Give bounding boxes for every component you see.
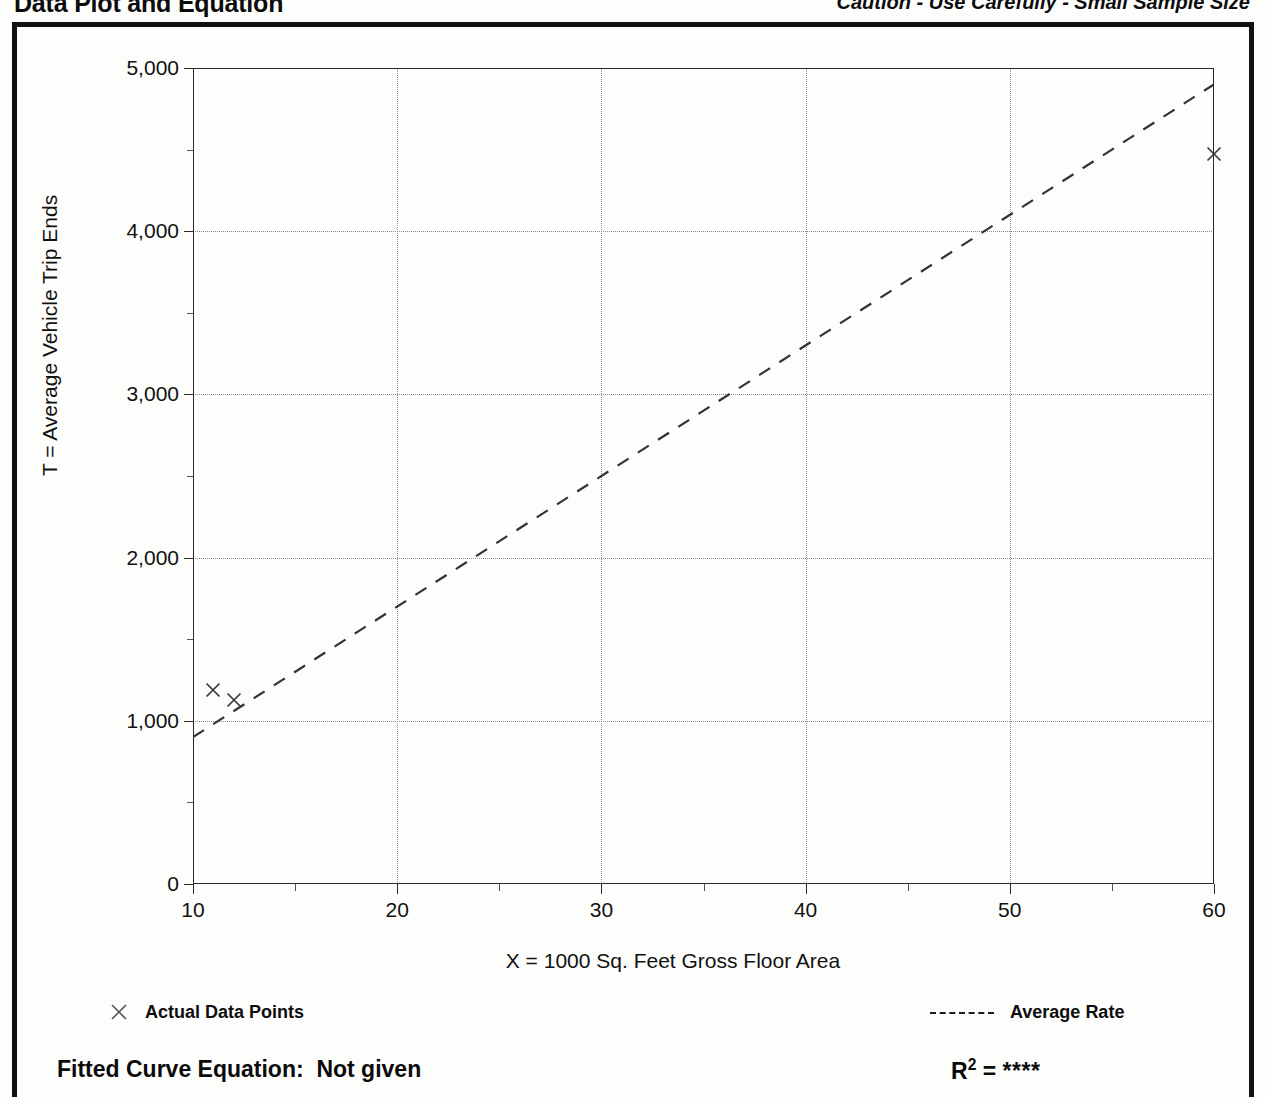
x-tick-major	[1214, 884, 1215, 894]
y-tick-label: 5,000	[126, 56, 179, 80]
legend-x-marker-icon	[108, 1001, 130, 1023]
y-tick-label: 1,000	[126, 709, 179, 733]
x-tick-label: 60	[1202, 898, 1225, 922]
legend-average-rate-line	[930, 1012, 994, 1014]
x-tick-major	[601, 884, 602, 894]
r-squared-value: R2 = ****	[951, 1056, 1040, 1085]
plot-area: 01,0002,0003,0004,0005,000102030405060	[193, 68, 1214, 884]
x-tick-minor	[295, 884, 296, 891]
x-tick-minor	[704, 884, 705, 891]
x-tick-label: 50	[998, 898, 1021, 922]
x-tick-major	[397, 884, 398, 894]
y-tick-major	[184, 231, 193, 232]
legend-data-points-label: Actual Data Points	[145, 1002, 304, 1023]
x-tick-label: 40	[794, 898, 817, 922]
x-tick-minor	[908, 884, 909, 891]
page-header: Data Plot and Equation Caution - Use Car…	[0, 0, 1266, 17]
y-tick-major	[184, 721, 193, 722]
x-tick-major	[1010, 884, 1011, 894]
legend-average-rate-label: Average Rate	[1010, 1002, 1124, 1023]
y-tick-label: 3,000	[126, 382, 179, 406]
r-letter: R	[951, 1058, 968, 1084]
x-tick-label: 10	[181, 898, 204, 922]
x-tick-minor	[499, 884, 500, 891]
r-equals: =	[983, 1058, 996, 1084]
y-tick-label: 2,000	[126, 546, 179, 570]
equation-value: Not given	[316, 1056, 421, 1082]
y-tick-major	[184, 558, 193, 559]
x-tick-label: 20	[386, 898, 409, 922]
y-tick-major	[184, 394, 193, 395]
x-tick-major	[193, 884, 194, 894]
y-axis-title: T = Average Vehicle Trip Ends	[38, 195, 62, 476]
r-value: ****	[1003, 1058, 1041, 1084]
x-tick-minor	[1112, 884, 1113, 891]
equation-label: Fitted Curve Equation:	[57, 1056, 304, 1082]
fitted-curve-equation: Fitted Curve Equation: Not given	[57, 1056, 421, 1083]
plot-frame	[193, 68, 1214, 884]
page-title: Data Plot and Equation	[14, 0, 283, 17]
caution-note: Caution - Use Carefully - Small Sample S…	[837, 0, 1250, 14]
x-tick-label: 30	[590, 898, 613, 922]
y-tick-label: 4,000	[126, 219, 179, 243]
y-tick-label: 0	[167, 872, 179, 896]
y-tick-major	[184, 68, 193, 69]
y-tick-major	[184, 884, 193, 885]
x-tick-major	[806, 884, 807, 894]
x-axis-title: X = 1000 Sq. Feet Gross Floor Area	[0, 949, 1266, 973]
r-exponent: 2	[968, 1056, 977, 1073]
